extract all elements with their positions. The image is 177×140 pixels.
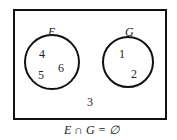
set-e-circle: [25, 35, 79, 89]
set-g-label: G: [125, 25, 134, 39]
venn-diagram: E G 4 5 6 1 2 3 E ∩ G = ∅: [0, 0, 177, 140]
set-g-circle: [103, 37, 153, 87]
element: 1: [119, 47, 125, 61]
element: 6: [58, 61, 64, 75]
element-outside: 3: [87, 95, 93, 109]
caption: E ∩ G = ∅: [63, 123, 120, 137]
set-e-label: E: [47, 25, 56, 39]
element: 4: [39, 47, 45, 61]
element: 2: [131, 67, 137, 81]
element: 5: [38, 68, 44, 82]
